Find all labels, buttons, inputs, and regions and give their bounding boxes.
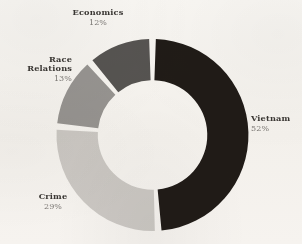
- slice-label-race-relations-value: 13%: [6, 75, 72, 84]
- donut-segment-crime: [57, 130, 155, 231]
- slice-label-economics: Economics 12%: [56, 8, 140, 28]
- slice-label-crime-name: Crime: [22, 192, 84, 201]
- slice-label-vietnam: Vietnam 52%: [251, 114, 301, 134]
- slice-label-economics-name: Economics: [56, 8, 140, 17]
- slice-label-race-relations-name-line2: Relations: [6, 64, 72, 73]
- slice-label-vietnam-value: 52%: [251, 125, 301, 134]
- donut-segment-vietnam: [154, 39, 248, 231]
- slice-label-crime: Crime 29%: [22, 192, 84, 212]
- donut-segments: [57, 39, 249, 231]
- slice-label-vietnam-name: Vietnam: [251, 114, 301, 123]
- slice-label-crime-value: 29%: [22, 203, 84, 212]
- slice-label-race-relations: Race Relations 13%: [6, 55, 72, 84]
- chart-page: Economics 12% Race Relations 13% Crime 2…: [0, 0, 302, 244]
- slice-label-economics-value: 12%: [56, 19, 140, 28]
